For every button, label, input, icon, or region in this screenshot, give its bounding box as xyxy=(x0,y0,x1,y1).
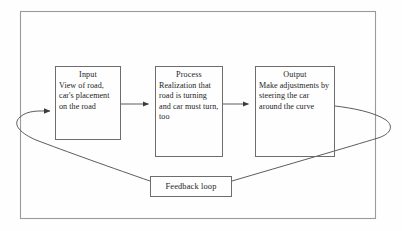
node-output[interactable]: Output Make adjustments by steering the … xyxy=(255,66,335,157)
node-process-body: Realization that road is turning and car… xyxy=(156,81,222,123)
node-output-body: Make adjustments by steering the car aro… xyxy=(256,81,334,113)
node-feedback-loop[interactable]: Feedback loop xyxy=(150,176,232,197)
node-process-title: Process xyxy=(156,67,222,81)
node-process[interactable]: Process Realization that road is turning… xyxy=(155,66,223,157)
node-input-body: View of road, car's placement on the roa… xyxy=(56,81,120,113)
node-feedback-loop-label: Feedback loop xyxy=(165,182,216,192)
diagram-canvas: Input View of road, car's placement on t… xyxy=(0,0,402,231)
node-input-title: Input xyxy=(56,67,120,81)
node-input[interactable]: Input View of road, car's placement on t… xyxy=(55,66,121,140)
node-output-title: Output xyxy=(256,67,334,81)
